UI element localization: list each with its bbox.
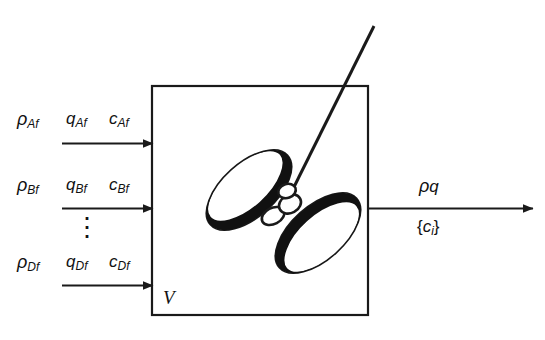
inlet-flow-label-df: qDf bbox=[66, 253, 87, 272]
outlet-conc-symbol: c bbox=[423, 217, 432, 236]
inlet-flow-label-af: qAf bbox=[66, 110, 87, 129]
inlet-conc-symbol-af: c bbox=[109, 109, 118, 128]
inlet-density-symbol-af: ρ bbox=[17, 109, 27, 129]
inlet-conc-symbol-df: c bbox=[109, 252, 118, 271]
vessel-volume-label: V bbox=[163, 288, 175, 307]
inlet-density-label-bf: ρBf bbox=[17, 176, 39, 196]
inlet-streams-ellipsis: ⋮ bbox=[74, 216, 100, 239]
inlet-conc-label-df: cDf bbox=[109, 253, 130, 272]
inlet-conc-subscript-df: Df bbox=[118, 259, 130, 273]
inlet-density-subscript-df: Df bbox=[27, 260, 39, 274]
inlet-density-subscript-bf: Bf bbox=[27, 183, 38, 197]
outlet-density-flow-label: ρq bbox=[419, 177, 439, 195]
inlet-flow-subscript-df: Df bbox=[75, 259, 87, 273]
outlet-density-symbol: ρ bbox=[419, 176, 429, 196]
diagram-vector-layer bbox=[0, 0, 545, 340]
inlet-conc-symbol-bf: c bbox=[109, 175, 118, 194]
inlet-conc-subscript-bf: Bf bbox=[118, 182, 129, 196]
inlet-density-subscript-af: Af bbox=[27, 117, 38, 131]
inlet-flow-label-bf: qBf bbox=[66, 176, 87, 195]
outlet-conc-close-brace: } bbox=[434, 217, 440, 236]
inlet-density-symbol-df: ρ bbox=[17, 252, 27, 272]
inlet-flow-subscript-bf: Bf bbox=[75, 182, 86, 196]
outlet-concentration-label: {ci} bbox=[417, 218, 440, 237]
outlet-flow-symbol: q bbox=[429, 177, 438, 196]
inlet-conc-label-bf: cBf bbox=[109, 176, 129, 195]
inlet-density-label-af: ρAf bbox=[17, 110, 39, 130]
inlet-flow-subscript-af: Af bbox=[75, 116, 86, 130]
inlet-density-label-df: ρDf bbox=[17, 253, 39, 273]
inlet-conc-label-af: cAf bbox=[109, 110, 129, 129]
inlet-density-symbol-bf: ρ bbox=[17, 175, 27, 195]
inlet-conc-subscript-af: Af bbox=[118, 116, 129, 130]
diagram-canvas: ρAf qAf cAf ρBf qBf cBf ⋮ ρDf qDf cDf V … bbox=[0, 0, 545, 340]
